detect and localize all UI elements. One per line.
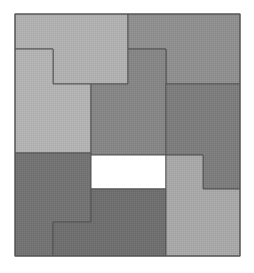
piece-white-gap	[91, 155, 166, 189]
puzzle-diagram	[0, 0, 254, 273]
tiling-svg	[0, 0, 254, 273]
pieces-group	[15, 14, 240, 256]
